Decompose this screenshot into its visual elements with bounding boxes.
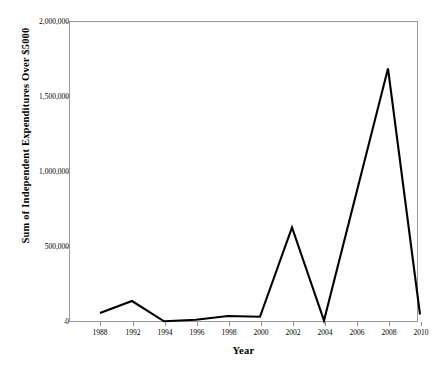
x-tick-mark: [100, 322, 101, 326]
x-tick-mark: [389, 322, 390, 326]
x-tick-mark: [293, 322, 294, 326]
x-tick-mark: [325, 322, 326, 326]
y-tick-label: 2,000,000: [23, 18, 69, 26]
x-tick-mark: [357, 322, 358, 326]
x-axis-title: Year: [69, 345, 418, 356]
y-tick-mark: [64, 97, 69, 98]
y-tick-label: 1,500,000: [23, 93, 69, 101]
y-tick-mark: [64, 172, 69, 173]
y-tick-mark: [64, 247, 69, 248]
x-tick-mark: [197, 322, 198, 326]
plot-area: [70, 22, 417, 322]
x-tick-label: 2010: [401, 328, 439, 337]
y-tick-mark: [64, 22, 69, 23]
chart-figure: Sum of Independent Expenditures Over $50…: [0, 0, 439, 372]
y-tick-label: 500,000: [23, 243, 69, 251]
y-axis-ticks: 2,000,000 1,500,000 1,000,000 500,000 0: [17, 0, 69, 372]
x-tick-mark: [261, 322, 262, 326]
x-tick-mark: [229, 322, 230, 326]
series-line-path: [100, 69, 420, 322]
x-tick-mark: [165, 322, 166, 326]
y-tick-label: 1,000,000: [23, 168, 69, 176]
x-tick-mark: [421, 322, 422, 326]
series-line-chart: [70, 22, 417, 322]
x-tick-mark: [133, 322, 134, 326]
